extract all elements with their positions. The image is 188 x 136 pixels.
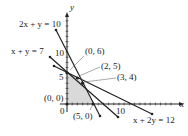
origin-label: 0 xyxy=(60,106,65,116)
label-x-plus-y-eq-7: x + y = 7 xyxy=(11,46,44,56)
label-point-3-4: (3, 4) xyxy=(117,72,137,82)
y-tick-5: 5 xyxy=(59,72,64,82)
x-tick-10: 10 xyxy=(116,106,126,116)
label-2x-plus-y-eq-10: 2x + y = 10 xyxy=(19,19,61,29)
label-point-0-0: (0, 0) xyxy=(44,93,64,103)
y-tick-10: 10 xyxy=(55,48,65,58)
label-x-plus-2y-eq-12: x + 2y = 12 xyxy=(133,115,175,125)
linear-programming-graph: y x 0 10 5 10 2x + y = 10 x + y = 7 x + … xyxy=(0,0,188,136)
y-axis-label: y xyxy=(69,2,74,12)
x-axis-label: x xyxy=(179,99,184,109)
label-point-2-5: (2, 5) xyxy=(101,61,121,71)
label-point-0-6: (0, 6) xyxy=(85,46,105,56)
label-point-5-0: (5, 0) xyxy=(73,111,93,121)
